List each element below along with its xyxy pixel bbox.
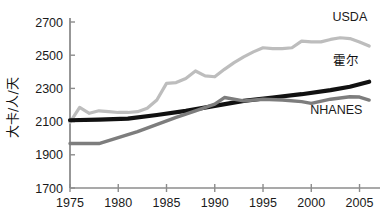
x-axis-tick-label: 2005	[346, 196, 374, 210]
y-axis-tick-label: 1700	[35, 182, 63, 196]
x-axis-tick-label: 1985	[153, 196, 181, 210]
y-axis-tick-label: 2300	[35, 82, 63, 96]
series-label-USDA: USDA	[333, 10, 368, 24]
series-label-霍尔: 霍尔	[333, 53, 359, 68]
data-series-group	[70, 38, 369, 144]
line-chart-plot: 170019002100230025002700 197519801985199…	[0, 0, 384, 214]
chart-container: 大卡/人/天 170019002100230025002700 19751980…	[0, 0, 384, 214]
y-axis-tick-label: 2100	[35, 115, 63, 129]
y-axis-tick-group: 170019002100230025002700	[35, 16, 75, 196]
y-axis-tick-label: 2500	[35, 49, 63, 63]
x-axis-tick-label: 2000	[297, 196, 325, 210]
series-label-NHANES: NHANES	[310, 103, 362, 117]
x-axis-tick-label: 1980	[104, 196, 132, 210]
x-axis-tick-label: 1990	[201, 196, 229, 210]
y-axis-tick-label: 2700	[35, 16, 63, 30]
y-axis-tick-label: 1900	[35, 148, 63, 162]
x-axis-tick-label: 1975	[56, 196, 84, 210]
x-axis-tick-label: 1995	[249, 196, 277, 210]
